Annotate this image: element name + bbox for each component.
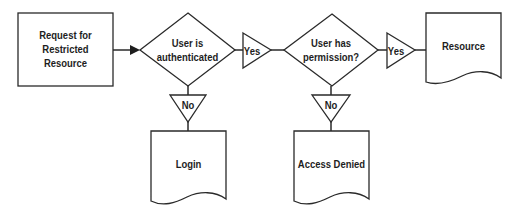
auth-decision-line-1: User is	[147, 36, 229, 50]
start-label-line-3: Resource	[25, 56, 107, 70]
perm-yes-label: Yes	[386, 44, 407, 58]
access-denied-label: Access Denied	[295, 157, 368, 171]
auth-decision-label: User is authenticated	[147, 36, 229, 64]
start-label: Request for Restricted Resource	[25, 28, 107, 70]
auth-decision-line-2: authenticated	[147, 50, 229, 64]
perm-decision-line-2: permission?	[291, 50, 372, 64]
start-label-line-1: Request for	[25, 28, 107, 42]
perm-decision-line-1: User has	[291, 36, 372, 50]
resource-label: Resource	[431, 39, 496, 53]
auth-no-label: No	[178, 98, 199, 112]
flowchart-canvas: Request for Restricted Resource User is …	[0, 0, 518, 215]
start-label-line-2: Restricted	[25, 42, 107, 56]
perm-decision-label: User has permission?	[291, 36, 372, 64]
login-label: Login	[156, 157, 221, 171]
perm-no-label: No	[321, 98, 342, 112]
arrowhead-icon	[130, 45, 140, 55]
auth-yes-label: Yes	[242, 44, 263, 58]
